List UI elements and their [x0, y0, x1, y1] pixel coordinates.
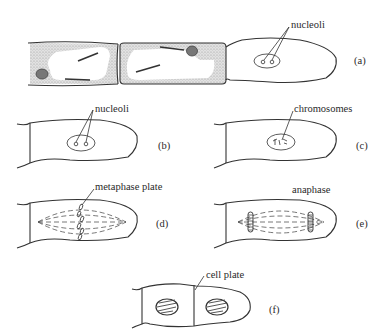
panel-d: metaphase plate (d)	[17, 181, 169, 248]
panel-e: anaphase (e)	[214, 184, 368, 248]
nucleolus-icon	[261, 60, 265, 64]
label-chromosomes: chromosomes	[294, 103, 352, 114]
filament-cell-2	[120, 43, 226, 84]
panel-f: cell plate (f)	[132, 269, 280, 328]
nucleus-icon	[36, 69, 48, 79]
chromosomes-icon	[273, 139, 287, 145]
panel-a: nucleoli (a)	[28, 19, 366, 86]
nucleus-outline	[267, 134, 295, 150]
label-metaphase-plate: metaphase plate	[95, 181, 163, 192]
panel-tag-d: (d)	[156, 218, 169, 230]
apical-cell-a	[226, 27, 336, 83]
nucleus-outline	[67, 135, 95, 151]
filament-cell-1	[28, 42, 118, 86]
panel-c: chromosomes (c)	[214, 103, 368, 168]
daughter-nucleus-left	[156, 299, 178, 315]
label-cell-plate: cell plate	[206, 269, 245, 280]
nucleolus-icon	[84, 142, 88, 146]
nucleus-icon	[187, 46, 198, 56]
label-anaphase: anaphase	[292, 184, 331, 195]
nucleolus-icon	[74, 142, 78, 146]
chromosomes-icon	[77, 204, 85, 241]
label-nucleoli-b: nucleoli	[95, 103, 129, 114]
panel-tag-f: (f)	[269, 304, 280, 316]
panel-tag-e: (e)	[356, 218, 368, 230]
panel-tag-a: (a)	[354, 55, 366, 67]
nucleolus-icon	[270, 60, 274, 64]
panel-tag-b: (b)	[158, 140, 171, 152]
label-nucleoli-a: nucleoli	[291, 19, 325, 30]
mitosis-diagram: nucleoli (a) nucleoli (b) chromosomes (c…	[0, 0, 380, 333]
arrow-icon	[65, 79, 90, 80]
daughter-nucleus-right	[206, 299, 228, 315]
panel-b: nucleoli (b)	[17, 103, 171, 168]
panel-tag-c: (c)	[356, 140, 368, 152]
